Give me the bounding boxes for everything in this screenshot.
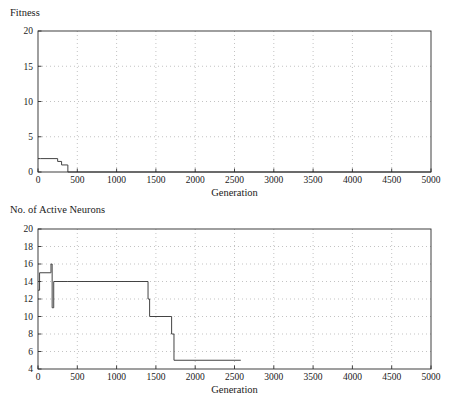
fitness-xtick-label: 2000 xyxy=(186,175,205,185)
fitness-xtick-label: 4000 xyxy=(343,175,362,185)
neurons-xtick-label: 5000 xyxy=(422,372,441,382)
neurons-xtick-label: 1500 xyxy=(146,372,165,382)
neurons-xaxis-title: Generation xyxy=(211,384,258,395)
chart-panel-neurons: No. of Active Neurons 050010001500200025… xyxy=(0,200,459,405)
neurons-xtick-label: 2500 xyxy=(225,372,244,382)
neurons-xtick-label: 3500 xyxy=(304,372,323,382)
neurons-ytick-label: 14 xyxy=(24,277,34,287)
neurons-plot-canvas: 0500100015002000250030003500400045005000… xyxy=(0,200,459,405)
neurons-ytick-label: 20 xyxy=(24,224,34,234)
neurons-xtick-label: 4000 xyxy=(343,372,362,382)
neurons-ytick-label: 8 xyxy=(28,329,33,339)
neurons-xtick-label: 500 xyxy=(70,372,85,382)
neurons-xtick-label: 4500 xyxy=(382,372,401,382)
neurons-series-0 xyxy=(38,264,241,360)
neurons-xtick-label: 0 xyxy=(36,372,41,382)
fitness-xtick-label: 4500 xyxy=(382,175,401,185)
chart-panel-fitness: Fitness 05001000150020002500300035004000… xyxy=(0,0,459,200)
fitness-ytick-label: 10 xyxy=(24,97,34,107)
fitness-xtick-label: 1000 xyxy=(107,175,126,185)
fitness-xtick-label: 2500 xyxy=(225,175,244,185)
fitness-xtick-label: 0 xyxy=(36,175,41,185)
fitness-ytick-label: 15 xyxy=(24,62,34,72)
neurons-ytick-label: 16 xyxy=(24,259,34,269)
neurons-xtick-label: 2000 xyxy=(186,372,205,382)
neurons-ytick-label: 4 xyxy=(28,364,33,374)
fitness-ytick-label: 0 xyxy=(28,167,33,177)
neurons-ytick-label: 12 xyxy=(24,294,34,304)
neurons-ytick-label: 10 xyxy=(24,312,34,322)
neurons-ytick-label: 6 xyxy=(28,347,33,357)
fitness-xtick-label: 3000 xyxy=(264,175,283,185)
fitness-ytick-label: 20 xyxy=(24,26,34,36)
neurons-xtick-label: 3000 xyxy=(264,372,283,382)
neurons-ytick-label: 18 xyxy=(24,242,34,252)
fitness-xtick-label: 5000 xyxy=(422,175,441,185)
fitness-xtick-label: 3500 xyxy=(304,175,323,185)
fitness-ytick-label: 5 xyxy=(28,132,33,142)
fitness-plot-canvas: 0500100015002000250030003500400045005000… xyxy=(0,0,459,200)
fitness-xtick-label: 500 xyxy=(70,175,85,185)
neurons-xtick-label: 1000 xyxy=(107,372,126,382)
fitness-xaxis-title: Generation xyxy=(211,187,258,198)
figure-root: Fitness 05001000150020002500300035004000… xyxy=(0,0,459,405)
fitness-xtick-label: 1500 xyxy=(146,175,165,185)
